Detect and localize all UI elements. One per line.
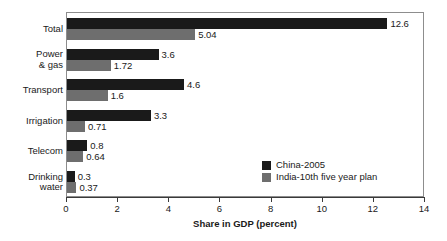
bar-group: 4.61.6 <box>67 79 423 101</box>
bar-row: 0.71 <box>67 121 423 132</box>
legend-label: India-10th five year plan <box>276 171 377 183</box>
bar-row: 1.72 <box>67 60 423 71</box>
x-tick-mark <box>322 197 323 202</box>
bar-row: 1.6 <box>67 90 423 101</box>
category-label: Drinking water <box>0 172 63 193</box>
x-tick-mark <box>66 197 67 202</box>
x-tick-label: 6 <box>217 203 222 214</box>
bar-row: 0.8 <box>67 140 423 151</box>
bar-chart: TotalPower & gasTransportIrrigationTelec… <box>0 0 447 241</box>
bar-row: 5.04 <box>67 29 423 40</box>
legend-item[interactable]: China-2005 <box>262 159 377 171</box>
bar-group: 12.65.04 <box>67 18 423 40</box>
x-axis-title: Share in GDP (percent) <box>66 218 424 229</box>
bar-india <box>67 90 108 101</box>
x-tick-mark <box>373 197 374 202</box>
bar-row: 4.6 <box>67 79 423 90</box>
bar-row: 0.37 <box>67 182 423 193</box>
bar-china <box>67 110 151 121</box>
bar-value-label: 0.8 <box>87 140 103 151</box>
x-tick-label: 14 <box>419 203 430 214</box>
legend-label: China-2005 <box>276 159 325 171</box>
x-tick-label: 12 <box>368 203 379 214</box>
bar-value-label: 0.64 <box>83 151 105 162</box>
category-label: Irrigation <box>0 116 63 127</box>
bar-row: 12.6 <box>67 18 423 29</box>
category-axis-labels: TotalPower & gasTransportIrrigationTelec… <box>0 12 63 197</box>
category-label: Power & gas <box>0 49 63 70</box>
bar-india <box>67 60 111 71</box>
bar-china <box>67 79 184 90</box>
bar-india <box>67 121 85 132</box>
bar-value-label: 5.04 <box>195 29 217 40</box>
chart-legend: China-2005India-10th five year plan <box>262 159 377 183</box>
x-tick-mark <box>117 197 118 202</box>
bar-value-label: 0.37 <box>76 182 98 193</box>
bar-value-label: 3.3 <box>151 110 167 121</box>
bar-china <box>67 171 75 182</box>
x-tick-mark <box>219 197 220 202</box>
x-tick-mark <box>271 197 272 202</box>
category-label: Total <box>0 24 63 35</box>
legend-swatch-icon <box>262 161 271 170</box>
bar-value-label: 0.71 <box>85 121 107 132</box>
bar-group: 3.61.72 <box>67 49 423 71</box>
bar-india <box>67 182 76 193</box>
bar-row: 3.3 <box>67 110 423 121</box>
bar-value-label: 0.3 <box>75 171 91 182</box>
x-tick-label: 2 <box>114 203 119 214</box>
x-tick-label: 10 <box>316 203 327 214</box>
x-tick-label: 0 <box>63 203 68 214</box>
bar-value-label: 1.6 <box>108 90 124 101</box>
x-tick-label: 4 <box>166 203 171 214</box>
x-axis-line <box>66 197 424 198</box>
bar-india <box>67 29 195 40</box>
x-tick-mark <box>424 197 425 202</box>
bar-value-label: 4.6 <box>184 79 200 90</box>
bar-row: 3.6 <box>67 49 423 60</box>
x-tick-mark <box>168 197 169 202</box>
bar-china <box>67 140 87 151</box>
bar-value-label: 1.72 <box>111 60 133 71</box>
category-label: Telecom <box>0 146 63 157</box>
legend-swatch-icon <box>262 173 271 182</box>
bar-group: 3.30.71 <box>67 110 423 132</box>
x-tick-label: 8 <box>268 203 273 214</box>
category-label: Transport <box>0 85 63 96</box>
bar-value-label: 3.6 <box>159 49 175 60</box>
bar-china <box>67 18 387 29</box>
bar-value-label: 12.6 <box>387 18 409 29</box>
bar-india <box>67 151 83 162</box>
legend-item[interactable]: India-10th five year plan <box>262 171 377 183</box>
bar-china <box>67 49 159 60</box>
